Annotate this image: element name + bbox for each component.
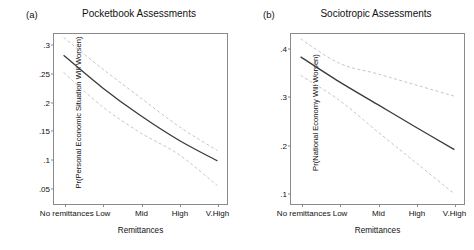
x-tick-mark bbox=[340, 204, 341, 207]
y-tick-label: .3 bbox=[280, 93, 287, 102]
x-tick-mark bbox=[180, 204, 181, 207]
series-line-1 bbox=[64, 37, 218, 150]
x-tick-mark bbox=[455, 204, 456, 207]
x-axis-label-a: Remittances bbox=[53, 226, 228, 236]
series-line-2 bbox=[301, 75, 455, 194]
panel-pocketbook: (a) Pocketbook Assessments Pr(Personal E… bbox=[0, 0, 237, 250]
x-axis-label-b: Remittances bbox=[290, 226, 465, 236]
y-tick-mark bbox=[288, 145, 291, 146]
y-tick-label: .05 bbox=[39, 184, 50, 193]
x-tick-label: No remittances bbox=[277, 209, 331, 218]
y-tick-label: .2 bbox=[280, 141, 287, 150]
plot-area-a: Pr(Personal Economic Situation Will Wors… bbox=[53, 33, 228, 205]
y-tick-label: .25 bbox=[39, 70, 50, 79]
y-tick-label: .1 bbox=[43, 156, 50, 165]
x-tick-mark bbox=[379, 204, 380, 207]
y-tick-mark bbox=[51, 102, 54, 103]
y-tick-label: .3 bbox=[43, 41, 50, 50]
plot-lines-a bbox=[54, 34, 227, 204]
y-tick-mark bbox=[51, 45, 54, 46]
series-line-1 bbox=[301, 39, 455, 96]
series-line-2 bbox=[64, 72, 218, 185]
y-tick-mark bbox=[51, 131, 54, 132]
x-tick-label: No remittances bbox=[40, 209, 94, 218]
x-tick-mark bbox=[417, 204, 418, 207]
x-tick-label: High bbox=[172, 209, 188, 218]
y-tick-mark bbox=[51, 74, 54, 75]
x-tick-label: Low bbox=[333, 209, 348, 218]
y-tick-label: .15 bbox=[39, 127, 50, 136]
panel-a-tag: (a) bbox=[26, 9, 38, 20]
panel-sociotropic: (b) Sociotropic Assessments Pr(National … bbox=[237, 0, 474, 250]
y-tick-label: .1 bbox=[280, 190, 287, 199]
panel-b-tag: (b) bbox=[263, 9, 275, 20]
y-tick-mark bbox=[288, 194, 291, 195]
x-tick-label: High bbox=[409, 209, 425, 218]
x-tick-mark bbox=[218, 204, 219, 207]
y-tick-label: .2 bbox=[43, 98, 50, 107]
x-tick-label: V.High bbox=[443, 209, 466, 218]
series-line-0 bbox=[301, 57, 455, 150]
figure-container: (a) Pocketbook Assessments Pr(Personal E… bbox=[0, 0, 474, 250]
x-tick-mark bbox=[103, 204, 104, 207]
series-line-0 bbox=[64, 55, 218, 161]
x-tick-mark bbox=[142, 204, 143, 207]
x-tick-label: Low bbox=[96, 209, 111, 218]
plot-area-b: Pr(National Economy Will Worsen) .1.2.3.… bbox=[290, 33, 465, 205]
y-tick-mark bbox=[288, 48, 291, 49]
x-tick-mark bbox=[65, 204, 66, 207]
x-tick-label: Mid bbox=[372, 209, 385, 218]
y-tick-mark bbox=[51, 160, 54, 161]
y-tick-mark bbox=[288, 97, 291, 98]
x-tick-label: Mid bbox=[135, 209, 148, 218]
plot-lines-b bbox=[291, 34, 464, 204]
y-tick-label: .4 bbox=[280, 44, 287, 53]
y-tick-mark bbox=[51, 188, 54, 189]
x-tick-label: V.High bbox=[206, 209, 229, 218]
x-tick-mark bbox=[302, 204, 303, 207]
